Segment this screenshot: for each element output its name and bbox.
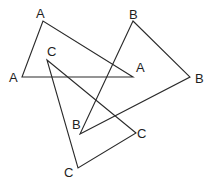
label-b-right: B xyxy=(195,71,204,86)
diagram-svg: A A A B B B C C C xyxy=(0,0,214,184)
overlapping-triangles-diagram: A A A B B B C C C xyxy=(0,0,214,184)
label-b-top: B xyxy=(129,7,138,22)
label-c-top: C xyxy=(47,44,56,59)
label-a-left: A xyxy=(9,70,18,85)
triangle-c xyxy=(47,60,136,168)
label-a-top: A xyxy=(36,6,45,21)
label-c-right: C xyxy=(137,126,146,141)
triangle-a xyxy=(22,21,133,77)
label-a-right: A xyxy=(136,60,145,75)
label-b-bottom: B xyxy=(72,117,81,132)
label-c-bottom: C xyxy=(64,165,73,180)
